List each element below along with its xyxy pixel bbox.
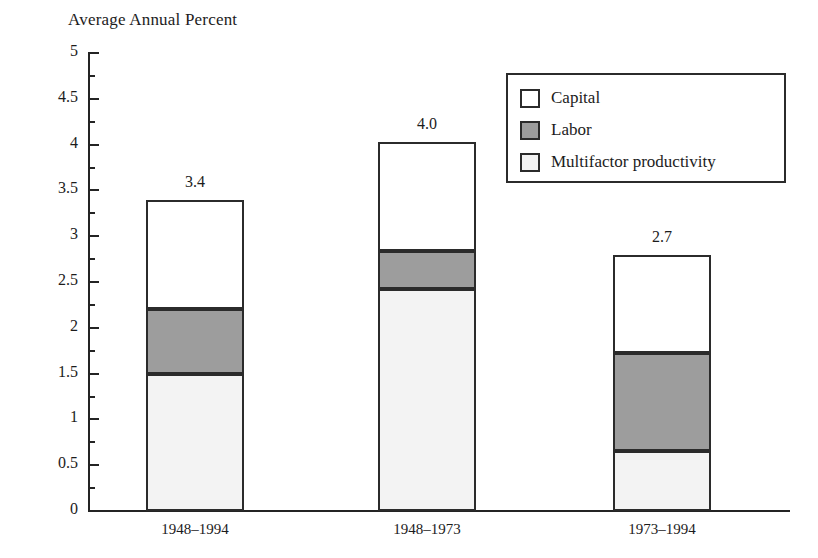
y-tick-label: 3.5	[14, 179, 78, 197]
y-tick-major	[88, 235, 99, 237]
y-tick-major	[88, 52, 99, 54]
bar-total-label: 3.4	[146, 173, 244, 191]
y-tick-minor	[88, 212, 95, 214]
y-tick-minor	[88, 350, 95, 352]
legend-label-capital: Capital	[551, 88, 600, 108]
bar-total-label: 2.7	[613, 228, 711, 246]
y-tick-major	[88, 281, 99, 283]
y-tick-minor	[88, 441, 95, 443]
y-tick-label: 3	[14, 225, 78, 243]
bar-segment-multifactor-productivity	[146, 374, 244, 511]
y-tick-minor	[88, 487, 95, 489]
stacked-bar	[146, 53, 244, 511]
legend-item-capital: Capital	[520, 82, 784, 114]
y-tick-major	[88, 418, 99, 420]
legend-swatch-capital	[520, 89, 540, 108]
legend-item-multifactor-productivity: Multifactor productivity	[520, 146, 784, 178]
bar-segment-capital	[378, 142, 476, 251]
legend-swatch-labor	[520, 121, 540, 140]
y-tick-minor	[88, 75, 95, 77]
y-tick-minor	[88, 121, 95, 123]
y-tick-major	[88, 373, 99, 375]
y-tick-major	[88, 98, 99, 100]
y-tick-label: 4	[14, 134, 78, 152]
bar-segment-capital	[146, 200, 244, 310]
x-category-label: 1948–1994	[100, 521, 290, 538]
legend-swatch-multifactor-productivity	[520, 153, 540, 172]
y-tick-label: 5	[14, 42, 78, 60]
y-tick-label: 0.5	[14, 454, 78, 472]
y-tick-minor	[88, 167, 95, 169]
y-tick-minor	[88, 396, 95, 398]
y-tick-major	[88, 327, 99, 329]
bar-segment-multifactor-productivity	[378, 289, 476, 511]
legend-label-multifactor-productivity: Multifactor productivity	[551, 152, 716, 172]
bar-segment-labor	[378, 251, 476, 289]
chart-figure: Average Annual Percent 54.543.532.521.51…	[0, 0, 818, 558]
y-tick-label: 0	[14, 500, 78, 518]
y-tick-label: 2	[14, 317, 78, 335]
chart-legend: Capital Labor Multifactor productivity	[506, 73, 786, 183]
bar-segment-multifactor-productivity	[613, 451, 711, 511]
y-tick-major	[88, 464, 99, 466]
y-tick-label: 4.5	[14, 88, 78, 106]
y-tick-major	[88, 189, 99, 191]
x-category-label: 1973–1994	[567, 521, 757, 538]
bar-segment-labor	[613, 353, 711, 451]
y-tick-label: 1	[14, 408, 78, 426]
y-tick-major	[88, 510, 99, 512]
legend-label-labor: Labor	[551, 120, 592, 140]
bar-segment-capital	[613, 255, 711, 353]
y-tick-minor	[88, 258, 95, 260]
x-category-label: 1948–1973	[332, 521, 522, 538]
y-tick-minor	[88, 304, 95, 306]
bar-segment-labor	[146, 309, 244, 373]
legend-item-labor: Labor	[520, 114, 784, 146]
y-tick-major	[88, 144, 99, 146]
y-tick-label: 2.5	[14, 271, 78, 289]
chart-title: Average Annual Percent	[68, 10, 237, 30]
bar-total-label: 4.0	[378, 115, 476, 133]
y-tick-label: 1.5	[14, 363, 78, 381]
